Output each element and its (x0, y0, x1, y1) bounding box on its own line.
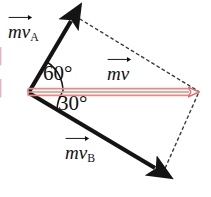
edge-mark-bottom: ▌ (0, 80, 7, 97)
label-vector-b: mvB (65, 143, 95, 164)
dashed-line-tip-to-b (163, 94, 198, 173)
vector-diagram-figure: mvA mvB mv 60° 30° ▌ ▌ (0, 0, 211, 197)
label-vector-b-text: mv (65, 143, 87, 162)
label-angle-30: 30° (58, 93, 87, 114)
label-vector-a-base: mv (8, 21, 30, 42)
label-vector-b-subscript: B (87, 152, 95, 165)
vector-arrow-resultant (28, 89, 189, 96)
vector-arrow-accent-icon (8, 14, 32, 20)
dashed-line-a-to-tip (75, 16, 198, 91)
label-vector-b-base: mv (65, 142, 87, 163)
label-vector-resultant: mv (107, 64, 129, 83)
vector-arrow-accent-icon (107, 56, 131, 62)
label-angle-60: 60° (43, 63, 72, 84)
label-vector-resultant-base: mv (107, 63, 129, 84)
vector-arrow-accent-icon (65, 135, 89, 141)
label-vector-a: mvA (8, 22, 39, 43)
label-vector-a-text: mv (8, 22, 30, 41)
label-vector-a-subscript: A (30, 31, 39, 44)
edge-mark-top: ▌ (0, 48, 7, 65)
label-vector-resultant-text: mv (107, 64, 129, 83)
